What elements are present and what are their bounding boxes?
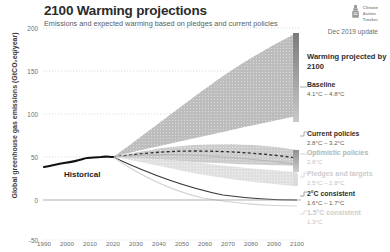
legend-item-current-policies-label: Current policies <box>307 130 390 139</box>
baseline-swatch <box>293 33 299 122</box>
historical-annotation: Historical <box>64 170 100 179</box>
pledges-swatch <box>293 174 298 186</box>
y-axis-ticks: 200 150 100 50 0 -50 <box>12 0 38 252</box>
legend-item-optimistic-policies-range: 2.8°C <box>307 158 390 166</box>
y-tick-150: 150 <box>12 68 38 75</box>
legend-item-baseline[interactable]: Baseline 4.1°C – 4.8°C <box>307 81 390 97</box>
legend-item-1p5c-consistent[interactable]: 1.5°C consistent 1.3°C <box>307 209 390 225</box>
connector-1p5c <box>300 211 307 214</box>
y-tick-100: 100 <box>12 111 38 118</box>
legend-item-2c-consistent-label: 2°C consistent <box>307 190 390 199</box>
series-historical-line <box>44 157 113 167</box>
connector-pledges <box>300 173 307 177</box>
legend-item-pledges-targets-label: Pledges and targets <box>307 170 390 179</box>
legend: Warming projected by 2100 Baseline 4.1°C… <box>307 0 390 252</box>
legend-item-1p5c-consistent-range: 1.3°C <box>307 218 390 226</box>
y-tick-50: 50 <box>12 154 38 161</box>
connector-current-policies <box>300 132 307 136</box>
legend-item-pledges-targets-range: 2.5°C – 2.8°C <box>307 179 390 187</box>
current-policies-swatch <box>293 150 299 172</box>
legend-item-current-policies[interactable]: Current policies 2.8°C – 3.2°C <box>307 130 390 146</box>
legend-item-1p5c-consistent-label: 1.5°C consistent <box>307 209 390 218</box>
chart-plot-area <box>43 24 301 242</box>
legend-item-2c-consistent-range: 1.6°C – 1.7°C <box>307 199 390 207</box>
y-tick-0: 0 <box>12 197 38 204</box>
chart-page: 2100 Warming projections Emissions and e… <box>0 0 390 252</box>
legend-item-pledges-targets[interactable]: Pledges and targets 2.5°C – 2.8°C <box>307 170 390 186</box>
series-baseline-band <box>113 33 297 157</box>
connector-2c <box>300 192 307 196</box>
legend-heading: Warming projected by 2100 <box>307 52 390 72</box>
legend-item-optimistic-policies[interactable]: Optimistic policies 2.8°C <box>307 149 390 165</box>
legend-item-baseline-label: Baseline <box>307 81 390 90</box>
legend-item-2c-consistent[interactable]: 2°C consistent 1.6°C – 1.7°C <box>307 190 390 206</box>
legend-item-current-policies-range: 2.8°C – 3.2°C <box>307 139 390 147</box>
legend-item-baseline-range: 4.1°C – 4.8°C <box>307 90 390 98</box>
legend-item-optimistic-policies-label: Optimistic policies <box>307 149 390 158</box>
y-tick-200: 200 <box>12 25 38 32</box>
page-title: 2100 Warming projections <box>44 3 207 18</box>
